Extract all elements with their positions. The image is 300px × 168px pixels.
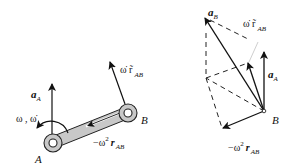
right-panel: aB ω̇ r̃AB aA B −ω2rAB xyxy=(205,6,279,156)
label-omega-dot-r: ω̇ r̃AB xyxy=(120,64,144,79)
link-ab xyxy=(51,107,130,148)
construction-lines xyxy=(206,20,264,128)
label-omega-dot-r-right: ω̇ r̃AB xyxy=(243,18,267,33)
tangential-accel-arrow-right xyxy=(248,63,264,111)
point-b-marker xyxy=(262,109,266,113)
label-leader-line xyxy=(249,42,258,62)
label-a-a-right: aA xyxy=(268,68,279,83)
pin-a xyxy=(44,134,62,152)
label-omega: ω , ω̇ xyxy=(16,113,38,124)
centripetal-accel-arrow-right xyxy=(223,111,264,128)
label-point-a: A xyxy=(34,153,42,165)
label-a-b: aB xyxy=(208,6,219,21)
acceleration-diagram: aA ω , ω̇ ω̇ r̃AB −ω2rAB A B aB ω̇ r̃A xyxy=(0,0,300,168)
label-a-a: aA xyxy=(31,88,42,103)
label-point-b: B xyxy=(141,114,148,126)
label-point-b-right: B xyxy=(272,114,279,126)
label-neg-omega2-r: −ω2rAB xyxy=(93,135,125,151)
left-panel: aA ω , ω̇ ω̇ r̃AB −ω2rAB A B xyxy=(16,62,148,165)
label-neg-omega2-r-right: −ω2rAB xyxy=(228,140,260,156)
pin-b xyxy=(119,104,137,122)
